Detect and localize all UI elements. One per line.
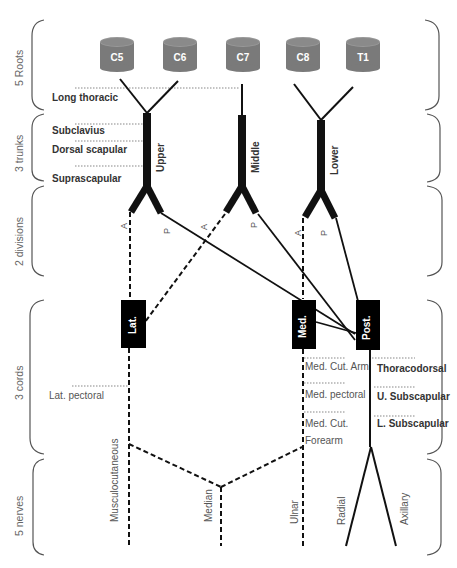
division-label-lower-anterior: A [294,230,303,236]
section-label-divisions: 2 divisions [14,217,25,266]
root-label-c8: C8 [286,53,320,63]
section-label-cords: 3 cords [14,366,25,400]
branch-thoracodorsal: Thoracodorsal [377,364,446,374]
left-brackets [30,20,44,555]
root-label-c6: C6 [163,53,197,63]
division-label-middle-posterior: P [250,222,259,228]
branch-u-subscapular: U. Subscapular [377,392,450,402]
trunk-label-middle: Middle [251,141,261,173]
division-label-upper-posterior: P [163,228,172,234]
trunks [143,113,325,192]
branch-med-pectoral: Med. pectoral [305,390,366,400]
division-label-upper-anterior: A [120,223,129,229]
trunk-label-lower: Lower [330,146,340,175]
branch-med-cut-arm: Med. Cut. Arm [305,362,369,372]
right-brackets [425,20,442,555]
section-label-roots: 5 Roots [14,50,25,86]
branch-lat-pectoral: Lat. pectoral [49,391,104,401]
root-label-t1: T1 [346,53,380,63]
division-label-lower-posterior: P [320,230,329,236]
section-label-nerves: 5 nerves [14,496,25,536]
anterior-divisions [130,212,303,322]
trunk-label-upper: Upper [156,143,166,172]
root-label-c7: C7 [226,53,260,63]
branch-med-cut-forearm-2: Forearm [305,436,343,446]
branch-dorsal-scapular: Dorsal scapular [52,145,127,155]
nerve-label-musculocutaneous: Musculocutaneous [110,439,120,522]
root-connections [120,79,353,120]
division-label-middle-anterior: A [200,224,209,230]
branch-long-thoracic: Long thoracic [52,93,118,103]
branch-med-cut-forearm-1: Med. Cut. [305,419,348,429]
nerve-label-axillary: Axillary [400,493,410,525]
nerve-label-ulnar: Ulnar [290,500,300,524]
branch-l-subscapular: L. Subscapular [377,419,449,429]
cord-label-medial: Med. [298,315,308,338]
section-label-trunks: 3 trunks [14,135,25,172]
cord-label-lateral: Lat. [128,316,138,334]
branch-suprascapular: Suprascapular [52,174,121,184]
branch-subclavius: Subclavius [52,126,105,136]
nerve-label-median: Median [204,489,214,522]
nerve-label-radial: Radial [337,497,347,525]
root-label-c5: C5 [100,53,134,63]
terminal-nerves [129,348,396,546]
brachial-plexus-diagram [0,0,457,568]
cord-label-posterior: Post. [362,316,372,340]
